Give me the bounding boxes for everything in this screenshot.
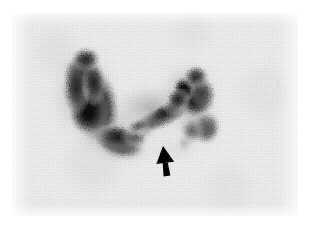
pointer-arrow [12, 13, 298, 216]
thyroid-scintigram-figure [0, 0, 311, 227]
arrow-head [156, 146, 174, 164]
scan-field [12, 13, 298, 216]
arrow-shaft [163, 163, 171, 177]
